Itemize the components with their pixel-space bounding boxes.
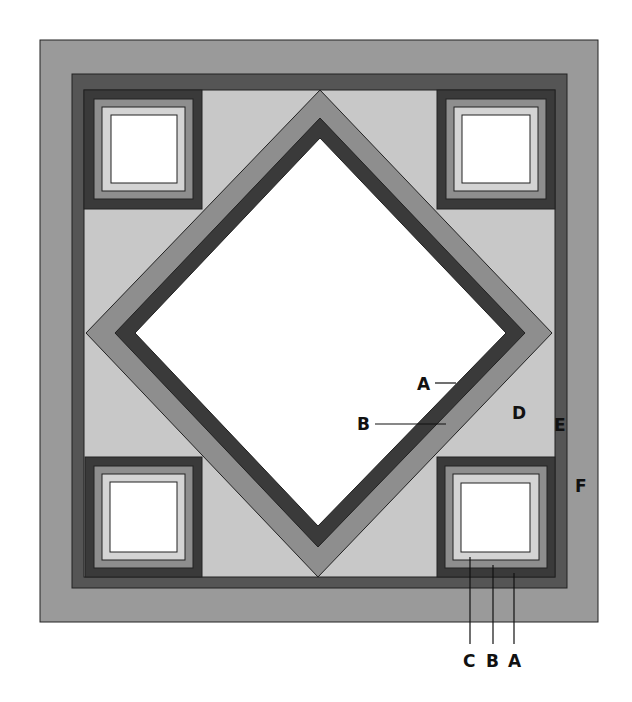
corner-block-top-right — [437, 90, 555, 209]
quilt-diagram: A B D E F C B A — [0, 0, 632, 702]
corner-block-bottom-left — [85, 457, 202, 577]
label-background-d: D — [512, 403, 526, 423]
label-border-f: F — [575, 476, 587, 496]
corner-block-top-left — [84, 90, 202, 209]
label-corner-c: C — [463, 651, 475, 671]
corner-block-bottom-right — [437, 457, 555, 577]
label-corner-b: B — [486, 651, 499, 671]
label-diamond-b: B — [357, 414, 370, 434]
label-corner-a: A — [508, 651, 522, 671]
label-diamond-a: A — [417, 374, 431, 394]
label-band-e: E — [554, 415, 566, 435]
